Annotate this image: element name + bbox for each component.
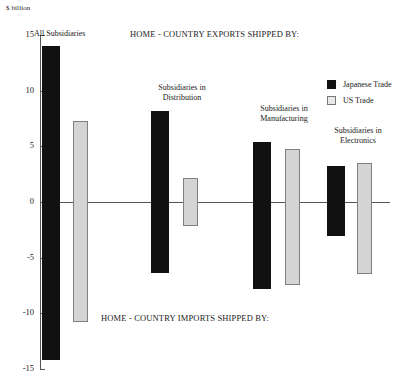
bar-japanese-trade [253,142,271,289]
imports-title: HOME - COUNTRY IMPORTS SHIPPED BY: [101,313,269,323]
group-caption: Subsidiaries in Manufacturing [238,104,330,124]
exports-title: HOME - COUNTRY EXPORTS SHIPPED BY: [130,29,299,39]
bar-us-trade [285,149,300,286]
group-caption: Subsidiaries in Electronics [312,126,404,146]
bar-japanese-trade [327,166,345,236]
y-axis-tick-label: 5 [8,141,34,150]
bar-us-trade [357,163,372,274]
y-axis-tick-label: -10 [8,308,34,317]
legend-label: Japanese Trade [343,80,392,89]
group-caption: Subsidiaries in Distribution [136,83,228,103]
group-caption: All Subsidiaries [34,29,124,39]
y-axis-tick-label: 15 [8,30,34,39]
legend-swatch-icon [327,96,336,105]
y-axis-tick-label: 10 [8,86,34,95]
bar-japanese-trade [151,111,169,273]
legend-item-japanese-trade: Japanese Trade [327,76,392,92]
chart-legend: Japanese Trade US Trade [327,76,392,108]
legend-label: US Trade [343,96,373,105]
y-axis-tick-label: -5 [8,253,34,262]
bar-us-trade [183,178,198,227]
y-axis-tick-label: -15 [8,364,34,373]
bar-japanese-trade [42,46,60,360]
legend-swatch-icon [327,80,336,89]
bar-chart: $ billion 151050-5-10-15 All Subsidiarie… [0,0,413,384]
legend-item-us-trade: US Trade [327,92,392,108]
y-axis-tick-label: 0 [8,197,34,206]
y-axis-unit-label: $ billion [6,4,30,12]
y-axis-tick [40,369,45,370]
bar-us-trade [73,121,88,322]
